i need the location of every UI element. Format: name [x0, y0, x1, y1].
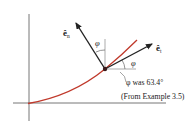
normal-angle-label: φ — [95, 38, 100, 48]
diagram-canvas: ên êt φ φ φ was 63.4° (From Example 3.5) — [0, 0, 195, 126]
normal-vector-label: ên — [63, 28, 70, 39]
normal-vector-arrow — [76, 23, 105, 69]
point-on-curve — [103, 67, 107, 71]
tangent-vector-label: êt — [156, 43, 162, 54]
tangent-angle-arc — [122, 60, 125, 69]
tangent-angle-label: φ — [131, 58, 136, 68]
annotation-line-2: (From Example 3.5) — [121, 92, 185, 101]
annotation-line-1: φ was 63.4° — [126, 78, 163, 87]
normal-angle-arc — [96, 50, 105, 52]
